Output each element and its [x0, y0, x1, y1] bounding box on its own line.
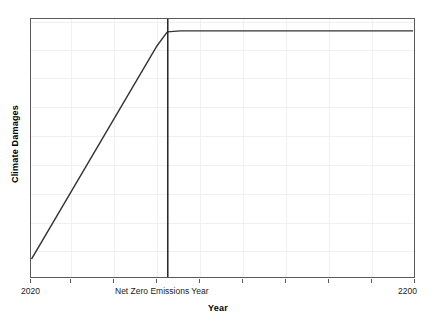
x-axis-title: Year: [0, 303, 436, 313]
x-axis-tick: [156, 279, 157, 283]
chart-canvas: [31, 19, 414, 277]
x-axis-tick: [414, 279, 415, 283]
x-axis-tick-label-net-zero: Net Zero Emissions Year: [115, 286, 209, 297]
x-axis-tick-label-start: 2020: [21, 286, 40, 297]
chart-figure: 2020 Net Zero Emissions Year 2200 Year C…: [0, 0, 436, 328]
y-axis-title: Climate Damages: [10, 84, 20, 204]
x-axis-tick: [30, 279, 31, 283]
x-axis-tick: [328, 279, 329, 283]
gridline-vertical: [414, 19, 415, 277]
plot-area: [30, 18, 415, 278]
x-axis-tick: [70, 279, 71, 283]
x-axis-tick: [371, 279, 372, 283]
x-axis-tick: [113, 279, 114, 283]
climate-damages-line: [31, 31, 413, 259]
x-axis-tick: [242, 279, 243, 283]
x-axis-tick: [199, 279, 200, 283]
x-axis-tick-label-end: 2200: [398, 286, 417, 297]
x-axis-tick: [285, 279, 286, 283]
